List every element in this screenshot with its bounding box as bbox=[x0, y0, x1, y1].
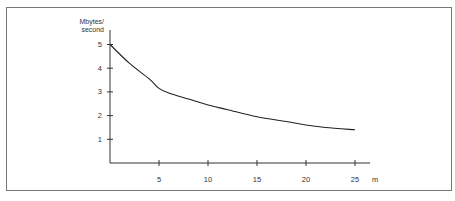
x-tick-label: 5 bbox=[157, 175, 161, 184]
x-ticks: 510152025 bbox=[157, 160, 359, 184]
y-axis-label-line2: second bbox=[81, 26, 104, 33]
data-line bbox=[110, 45, 355, 130]
y-ticks: 12345 bbox=[98, 40, 113, 144]
x-tick-label: 15 bbox=[253, 175, 261, 184]
x-tick-label: 25 bbox=[351, 175, 359, 184]
x-axis-label: m bbox=[372, 175, 378, 184]
x-tick-label: 20 bbox=[302, 175, 310, 184]
y-tick-label: 4 bbox=[98, 64, 102, 73]
y-axis-label-line1: Mbytes/ bbox=[79, 18, 104, 26]
y-tick-label: 2 bbox=[98, 111, 102, 120]
y-tick-label: 1 bbox=[98, 135, 102, 144]
y-tick-label: 3 bbox=[98, 87, 102, 96]
y-tick-label: 5 bbox=[98, 40, 102, 49]
x-tick-label: 10 bbox=[204, 175, 212, 184]
line-chart: Mbytes/ second m 12345 510152025 bbox=[0, 0, 455, 201]
